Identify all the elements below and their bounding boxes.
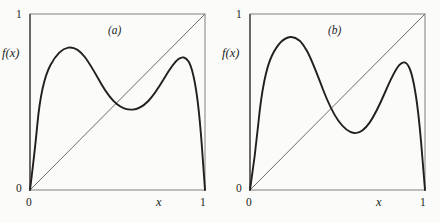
- panel-a-y-axis-title: f(x): [2, 47, 19, 60]
- panel-a-x-tick-min: 0: [26, 197, 32, 209]
- panel-a-x-axis-title: x: [156, 196, 162, 209]
- panel-a-diagonal-line: [30, 14, 205, 190]
- panel-a-y-tick-min: 0: [16, 183, 22, 195]
- panel-b-x-tick-min: 0: [246, 197, 252, 209]
- panel-a: 1 0 f(x) 0 1 x (a): [0, 0, 220, 223]
- figure-container: 1 0 f(x) 0 1 x (a) 1 0 f(x) 0 1 x (b): [0, 0, 440, 223]
- panel-a-x-tick-max: 1: [200, 197, 206, 209]
- panel-a-map-curve: [30, 47, 205, 190]
- panel-b-x-tick-max: 1: [420, 197, 426, 209]
- panel-b-diagonal-line: [250, 14, 425, 190]
- panel-b-map-curve: [250, 37, 425, 190]
- panel-b-y-tick-min: 0: [236, 183, 242, 195]
- panel-b-y-axis-title: f(x): [222, 47, 239, 60]
- panel-b: 1 0 f(x) 0 1 x (b): [220, 0, 440, 223]
- panel-a-tag: (a): [108, 25, 121, 37]
- panel-b-x-axis-title: x: [376, 196, 382, 209]
- panel-a-y-tick-max: 1: [16, 9, 22, 21]
- panel-b-tag: (b): [328, 25, 341, 37]
- panel-b-y-tick-max: 1: [236, 9, 242, 21]
